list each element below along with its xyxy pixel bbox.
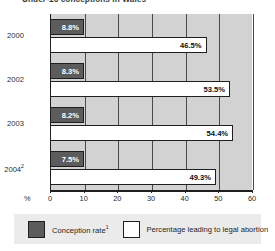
- bar-value-label: 46.5%: [180, 41, 206, 50]
- bar-abortion-percentage-2000: 46.5%: [50, 37, 207, 53]
- x-tick-30: [151, 190, 152, 193]
- x-tick-label-60: 60: [248, 194, 256, 203]
- bar-value-label: 8.3%: [62, 67, 83, 76]
- bar-abortion-percentage-2004: 49.3%: [50, 169, 216, 185]
- x-tick-label-10: 10: [80, 194, 88, 203]
- x-tick-60: [252, 190, 253, 193]
- bar-abortion-percentage-2002: 53.5%: [50, 81, 230, 97]
- year-label-2000: 2000: [0, 31, 24, 40]
- year-label-2002: 2002: [0, 75, 24, 84]
- bar-value-label: 8.8%: [62, 23, 83, 32]
- x-tick-50: [218, 190, 219, 193]
- bar-conception-rate-2000: 8.8%: [50, 19, 84, 35]
- bar-value-label: 54.4%: [207, 129, 233, 138]
- bar-group-2000: 20008.8%46.5%: [0, 14, 275, 58]
- x-tick-label-0: 0: [48, 194, 52, 203]
- legend-swatch-dark-icon: [28, 221, 45, 238]
- bar-value-label: 53.5%: [204, 85, 230, 94]
- bar-group-2004: 200427.5%49.3%: [0, 146, 275, 190]
- x-tick-0: [50, 190, 51, 193]
- legend-label-conception-rate: Conception rate1: [52, 224, 109, 235]
- year-label-2003: 2003: [0, 119, 24, 128]
- bar-group-2002: 20028.3%53.5%: [0, 58, 275, 102]
- chart-container: Under-16 conceptions in Wales 20008.8%46…: [0, 0, 275, 251]
- x-tick-label-50: 50: [214, 194, 222, 203]
- legend-swatch-light-icon: [123, 221, 140, 238]
- x-tick-20: [117, 190, 118, 193]
- bar-group-2003: 20038.2%54.4%: [0, 102, 275, 146]
- year-label-2004: 20042: [0, 163, 24, 174]
- bar-conception-rate-2003: 8.2%: [50, 107, 84, 123]
- x-axis-unit-label: %: [24, 194, 31, 203]
- bar-abortion-percentage-2003: 54.4%: [50, 125, 233, 141]
- x-tick-label-30: 30: [147, 194, 155, 203]
- chart-title: Under-16 conceptions in Wales: [22, 0, 232, 5]
- bar-value-label: 8.2%: [62, 111, 83, 120]
- bar-value-label: 7.5%: [62, 155, 83, 164]
- legend-label-abortion-percentage: Percentage leading to legal abortion: [147, 225, 269, 234]
- bar-conception-rate-2002: 8.3%: [50, 63, 84, 79]
- x-tick-10: [84, 190, 85, 193]
- legend-item-conception-rate: Conception rate1: [28, 221, 109, 238]
- x-tick-label-40: 40: [181, 194, 189, 203]
- x-tick-label-20: 20: [113, 194, 121, 203]
- legend-item-abortion-percentage: Percentage leading to legal abortion: [123, 221, 269, 238]
- x-tick-40: [185, 190, 186, 193]
- bar-value-label: 49.3%: [189, 173, 215, 182]
- chart-legend: Conception rate1 Percentage leading to l…: [14, 214, 261, 244]
- bar-conception-rate-2004: 7.5%: [50, 151, 84, 167]
